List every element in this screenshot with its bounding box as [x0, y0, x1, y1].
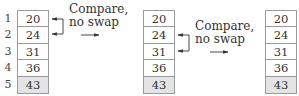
compare-bracket-icon: [52, 19, 63, 34]
comparison-arrows: [0, 0, 299, 96]
compare-bracket-icon: [178, 35, 189, 51]
